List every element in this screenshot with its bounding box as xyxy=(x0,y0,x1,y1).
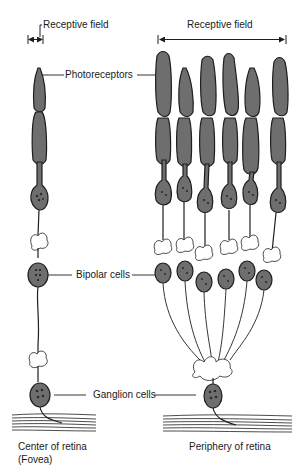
periphery-bipolar-cell-5 xyxy=(239,261,255,281)
fovea-nerve-fiber-layer xyxy=(12,414,96,431)
fovea-caption-line1: Center of retina xyxy=(18,441,87,453)
periphery-photoreceptor-4 xyxy=(223,54,239,116)
leader-lines xyxy=(43,75,196,395)
periphery-bipolar-cell-6 xyxy=(256,270,272,290)
periphery-bipolar-cell-2 xyxy=(177,261,193,281)
ganglion-cells-label: Ganglion cells xyxy=(93,389,156,401)
left-receptive-field-label: Receptive field xyxy=(43,19,109,31)
right-receptive-field-bracket xyxy=(158,35,286,44)
periphery-bipolar-cell-4 xyxy=(218,269,234,289)
bipolar-cells-label: Bipolar cells xyxy=(76,269,130,281)
periphery-column xyxy=(154,52,288,426)
periphery-bipolar-cell-1 xyxy=(155,263,171,283)
periphery-photoreceptor-2 xyxy=(179,68,193,117)
retina-diagram xyxy=(0,0,308,475)
fovea-caption-line2: (Fovea) xyxy=(18,454,52,466)
periphery-photoreceptor-3 xyxy=(201,56,216,116)
right-receptive-field-label: Receptive field xyxy=(187,19,253,31)
photoreceptors-label: Photoreceptors xyxy=(65,69,133,81)
periphery-nerve-fiber-layer xyxy=(163,415,292,432)
fovea-ganglion-cell xyxy=(30,383,50,407)
fovea-column xyxy=(28,68,62,423)
periphery-bipolar-cell-3 xyxy=(196,272,212,292)
periphery-photoreceptor-1 xyxy=(156,52,172,117)
fovea-bipolar-cell xyxy=(28,263,48,287)
periphery-ganglion-cell xyxy=(204,384,222,408)
left-receptive-field-bracket xyxy=(28,25,43,44)
periphery-photoreceptor-5 xyxy=(245,68,260,117)
periphery-photoreceptor-6 xyxy=(273,58,288,116)
periphery-caption: Periphery of retina xyxy=(189,441,271,453)
